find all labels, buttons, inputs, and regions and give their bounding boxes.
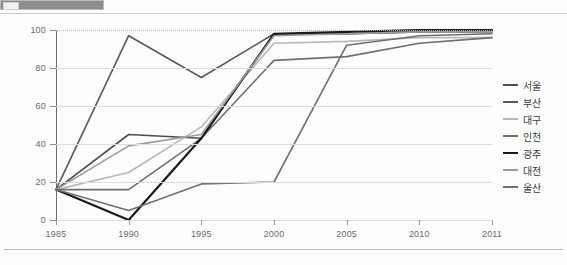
legend-label: 울산 [523,180,541,195]
bottom-divider [4,249,563,250]
x-tick-2005 [347,220,348,225]
x-axis-label: 2000 [264,229,285,239]
x-axis-label: 1985 [46,229,67,239]
top-gray-bar [0,0,104,10]
legend-swatch-icon [503,186,518,188]
legend-swatch-icon [503,152,518,154]
top-bar-swatch [3,2,19,10]
y-axis-label: 40 [6,139,46,149]
line-chart: 020406080100 서울부산대구인천광주대전울산 198519901995… [0,14,567,249]
legend-item[interactable]: 대전 [503,163,565,177]
x-tick-2010 [419,220,420,225]
legend-label: 부산 [523,95,541,110]
series-line [56,30,492,190]
y-axis-label: 80 [6,63,46,73]
legend-swatch-icon [503,135,518,137]
y-tick-40 [50,144,56,145]
x-tick-1995 [201,220,202,225]
legend-item[interactable]: 울산 [503,180,565,194]
plot-area [56,30,492,220]
gridline-40 [56,144,492,145]
series-line [56,32,492,190]
series-line [56,30,492,220]
screenshot-root: 020406080100 서울부산대구인천광주대전울산 198519901995… [0,0,567,265]
y-tick-60 [50,106,56,107]
legend-item[interactable]: 서울 [503,78,565,92]
y-axis-label: 100 [6,25,46,35]
gridline-20 [56,182,492,183]
x-tick-1990 [129,220,130,225]
x-axis-label: 2010 [409,229,430,239]
legend-item[interactable]: 대구 [503,112,565,126]
legend-swatch-icon [503,169,518,171]
legend-label: 광주 [523,146,541,161]
legend-item[interactable]: 부산 [503,95,565,109]
x-axis-label: 1990 [118,229,139,239]
x-axis-label: 2011 [482,229,502,239]
y-axis-label: 60 [6,101,46,111]
y-tick-80 [50,68,56,69]
series-lines [56,30,492,220]
y-tick-20 [50,182,56,183]
y-axis-labels: 020406080100 [0,30,46,220]
series-line [56,32,492,190]
x-axis-label: 1995 [191,229,212,239]
y-tick-100 [50,30,56,31]
x-tick-2000 [274,220,275,225]
legend-label: 대구 [523,112,541,127]
y-axis-label: 0 [6,215,46,225]
gridline-80 [56,68,492,69]
legend-item[interactable]: 인천 [503,129,565,143]
legend-label: 서울 [523,78,541,93]
legend-swatch-icon [503,101,518,103]
x-axis-label: 2005 [336,229,357,239]
series-line [56,38,492,190]
legend-swatch-icon [503,84,518,86]
y-axis-label: 20 [6,177,46,187]
gridline-60 [56,106,492,107]
legend-label: 인천 [523,129,541,144]
chart-legend: 서울부산대구인천광주대전울산 [503,78,565,194]
x-tick-2011 [492,220,493,225]
gridline-100 [56,30,492,31]
legend-swatch-icon [503,118,518,120]
legend-label: 대전 [523,163,541,178]
legend-item[interactable]: 광주 [503,146,565,160]
x-tick-1985 [56,220,57,225]
